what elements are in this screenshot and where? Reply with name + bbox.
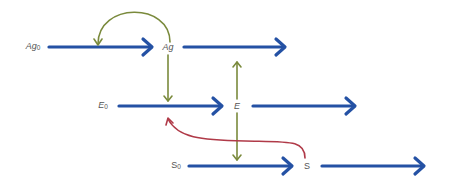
flow-arrow-e-out (253, 98, 355, 114)
node-label-e0: E0 (98, 100, 108, 112)
node-label-ag: Ag (162, 42, 173, 52)
node-label-ag0: Ag0 (26, 41, 41, 53)
influence-arrow-e-to-ag-out (233, 62, 241, 99)
node-label-s0: S0 (171, 160, 181, 172)
feedback-arc-ag-to-ag0-flow (94, 12, 170, 45)
inhibition-arrow-s-to-e-flow (166, 118, 305, 158)
flow-arrow-s-out (322, 158, 424, 174)
diagram-canvas: Ag0 Ag E0 E S0 S (0, 0, 454, 186)
influence-arrow-e-to-s-flow (233, 113, 241, 160)
flow-arrow-ag-out (184, 39, 285, 55)
diagram-arrows (0, 0, 454, 186)
flow-arrow-e0-to-e (119, 98, 222, 114)
flow-arrow-s0-to-s (189, 158, 292, 174)
influence-arrow-ag-to-e-flow (164, 55, 172, 101)
node-label-s: S (304, 161, 310, 171)
node-label-e: E (234, 101, 240, 111)
